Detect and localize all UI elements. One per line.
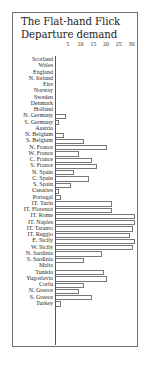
bar — [56, 195, 61, 200]
x-tick-label: 15 — [90, 40, 96, 48]
bar — [56, 226, 133, 231]
x-tick-label: 30 — [129, 40, 135, 48]
bar — [56, 170, 74, 175]
bar — [56, 158, 92, 163]
bar — [56, 245, 133, 250]
bar — [56, 133, 64, 138]
category-label: Turkey — [36, 300, 53, 307]
bar — [56, 258, 84, 263]
bar — [56, 295, 92, 300]
bar — [56, 145, 107, 150]
bar — [56, 183, 71, 188]
bar — [56, 276, 107, 281]
bar — [56, 120, 59, 125]
bar — [56, 208, 112, 213]
bar — [56, 139, 84, 144]
x-tick-label: 25 — [116, 40, 122, 48]
bar — [56, 176, 89, 181]
x-axis-ticks: 51015202530 — [13, 40, 139, 50]
bar — [56, 151, 79, 156]
x-tick-label: 20 — [103, 40, 109, 48]
bar — [56, 114, 66, 119]
bar — [56, 233, 130, 238]
bar — [56, 289, 79, 294]
bar — [56, 251, 102, 256]
bar — [56, 301, 61, 306]
bar — [56, 220, 135, 225]
chart-frame: The Flat-hand Flick Departure demand 510… — [12, 12, 138, 347]
bar — [56, 270, 104, 275]
chart-title: The Flat-hand Flick Departure demand — [21, 16, 139, 41]
bar — [56, 283, 84, 288]
bar-row: Turkey — [13, 301, 139, 307]
bar — [56, 214, 135, 219]
bar — [56, 189, 59, 194]
bar-rows: ScotlandWalesEnglandN. IrelandEireNorway… — [13, 57, 139, 307]
x-tick-label: 5 — [66, 40, 69, 48]
bar — [56, 164, 97, 169]
x-tick-label: 10 — [78, 40, 84, 48]
bar — [56, 201, 112, 206]
bar — [56, 239, 135, 244]
